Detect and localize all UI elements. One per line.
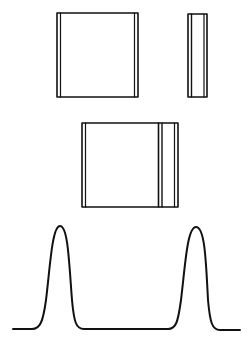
diagram-canvas bbox=[0, 0, 249, 344]
two-peak-profile-curve bbox=[13, 226, 240, 330]
wide-rectangle bbox=[57, 13, 138, 97]
combined-rectangle bbox=[82, 123, 178, 207]
narrow-rectangle bbox=[188, 14, 207, 97]
